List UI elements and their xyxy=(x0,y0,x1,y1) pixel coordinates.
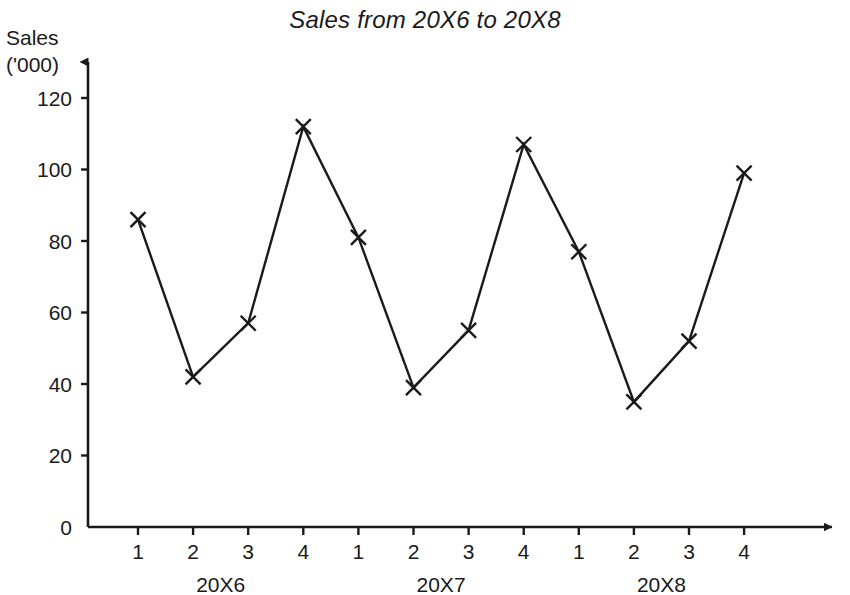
data-point-marker xyxy=(626,394,641,409)
x-tick-label: 4 xyxy=(518,540,530,563)
x-tick-label: 3 xyxy=(242,540,254,563)
x-tick-label: 2 xyxy=(408,540,420,563)
x-tick-label: 1 xyxy=(353,540,365,563)
data-point-marker xyxy=(461,323,476,338)
x-tick-label: 4 xyxy=(738,540,750,563)
x-axis-group-label: 20X6 xyxy=(196,573,245,595)
sales-series-markers xyxy=(131,119,752,409)
x-tick-label: 4 xyxy=(297,540,309,563)
data-point-marker xyxy=(571,244,586,259)
x-tick-label: 2 xyxy=(628,540,640,563)
x-tick-label: 3 xyxy=(683,540,695,563)
y-tick-label: 100 xyxy=(37,158,72,181)
y-axis-tick-labels: 020406080100120 xyxy=(37,87,72,539)
y-tick-label: 120 xyxy=(37,87,72,110)
y-tick-label: 40 xyxy=(49,373,72,396)
x-tick-label: 1 xyxy=(132,540,144,563)
y-tick-label: 80 xyxy=(49,230,72,253)
data-point-marker xyxy=(737,166,752,181)
x-tick-label: 1 xyxy=(573,540,585,563)
chart-plot-area: 020406080100120 123412341234 20X620X720X… xyxy=(0,0,850,595)
x-tick-label: 3 xyxy=(463,540,475,563)
x-axis-group-label: 20X8 xyxy=(637,573,686,595)
chart-figure: Sales from 20X6 to 20X8 Sales('000) 0204… xyxy=(0,0,850,595)
x-tick-label: 2 xyxy=(187,540,199,563)
x-axis-group-label: 20X7 xyxy=(417,573,466,595)
x-axis-tick-labels: 123412341234 xyxy=(132,540,750,563)
data-point-marker xyxy=(131,212,146,227)
data-point-marker xyxy=(682,334,697,349)
y-tick-label: 60 xyxy=(49,301,72,324)
data-point-marker xyxy=(186,369,201,384)
sales-series-line xyxy=(138,127,744,402)
x-axis-group-labels: 20X620X720X8 xyxy=(196,573,686,595)
data-point-marker xyxy=(241,316,256,331)
y-tick-label: 0 xyxy=(60,516,72,539)
data-point-marker xyxy=(296,119,311,134)
data-point-marker xyxy=(351,230,366,245)
data-point-marker xyxy=(406,380,421,395)
data-point-marker xyxy=(516,137,531,152)
y-tick-label: 20 xyxy=(49,444,72,467)
